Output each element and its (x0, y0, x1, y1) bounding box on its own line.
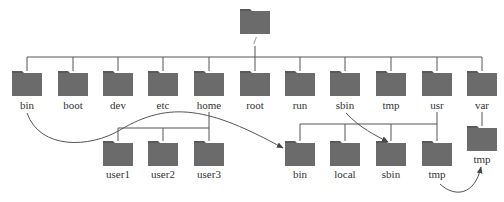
folder-label: tmp (428, 168, 446, 180)
folder-usr-sbin[interactable]: sbin (376, 141, 406, 180)
folder-icon (376, 71, 406, 96)
folder-home[interactable]: home (194, 71, 224, 111)
folder-label: bin (293, 168, 308, 180)
link-arrow-sbin-to-usr-sbin (346, 113, 388, 142)
folder-home-user3[interactable]: user3 (194, 141, 224, 180)
folder-run[interactable]: run (285, 71, 315, 111)
folder-label: dev (110, 99, 126, 111)
folder-usr-tmp[interactable]: tmp (422, 141, 452, 180)
folder-icon (103, 141, 133, 166)
folder-icon (285, 71, 315, 96)
root-folder[interactable]: / (240, 9, 270, 46)
link-arrow-usr-tmp-to-var-tmp (440, 167, 481, 192)
folder-label: user2 (151, 168, 175, 180)
folder-icon (240, 9, 270, 34)
folder-etc[interactable]: etc (148, 71, 178, 111)
folder-icon (285, 141, 315, 166)
folder-label: root (246, 99, 264, 111)
folder-home-user1[interactable]: user1 (103, 141, 133, 180)
folder-label: sbin (382, 168, 401, 180)
folder-icon (103, 71, 133, 96)
folder-icon (467, 126, 497, 151)
folder-icon (240, 71, 270, 96)
folder-icon (194, 71, 224, 96)
usr-children-connectors (300, 112, 437, 141)
folder-home-user2[interactable]: user2 (148, 141, 178, 180)
folder-label: user3 (197, 168, 221, 180)
folder-icon (376, 141, 406, 166)
folder-var-tmp[interactable]: tmp (467, 126, 497, 165)
folder-icon (148, 71, 178, 96)
folder-label: home (197, 99, 222, 111)
folder-dev[interactable]: dev (103, 71, 133, 111)
folder-label: tmp (382, 99, 400, 111)
folder-label: usr (430, 99, 444, 111)
folder-label: run (293, 99, 308, 111)
folder-icon (194, 141, 224, 166)
folder-boot[interactable]: boot (58, 71, 88, 111)
folder-bin[interactable]: bin (12, 71, 42, 111)
folder-label: bin (20, 99, 35, 111)
folder-var[interactable]: var (467, 71, 497, 111)
folder-icon (422, 71, 452, 96)
folder-icon (148, 141, 178, 166)
level1-drops (27, 57, 482, 71)
folder-icon (422, 141, 452, 166)
folder-root[interactable]: root (240, 71, 270, 111)
folder-sbin[interactable]: sbin (330, 71, 360, 111)
root-label: / (253, 34, 257, 46)
folder-label: var (475, 99, 489, 111)
home-children-connectors (118, 112, 209, 141)
folder-usr-bin[interactable]: bin (285, 141, 315, 180)
folder-icon (58, 71, 88, 96)
filesystem-tree-diagram: / bin boot dev etc home root run sbin tm… (0, 0, 504, 202)
folder-label: etc (157, 99, 170, 111)
folder-label: local (334, 168, 355, 180)
folder-label: boot (63, 99, 83, 111)
folder-label: user1 (106, 168, 130, 180)
folder-icon (12, 71, 42, 96)
folder-label: sbin (336, 99, 355, 111)
folder-label: tmp (473, 153, 491, 165)
folder-icon (330, 141, 360, 166)
folder-icon (467, 71, 497, 96)
folder-icon (330, 71, 360, 96)
folder-usr[interactable]: usr (422, 71, 452, 111)
folder-tmp[interactable]: tmp (376, 71, 406, 111)
folder-usr-local[interactable]: local (330, 141, 360, 180)
